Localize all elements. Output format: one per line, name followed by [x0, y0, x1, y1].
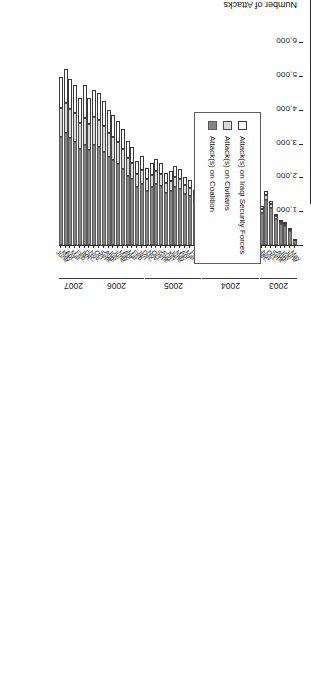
- bar-apr-47: [68, 42, 72, 245]
- bar-dec-43: [87, 42, 91, 245]
- bar-may-48: [64, 42, 68, 245]
- bar-sept-40: [102, 42, 106, 245]
- bar-segment: [140, 156, 144, 170]
- bar-segment: [78, 149, 82, 245]
- legend-label: Attack(s) on Coalition: [208, 136, 217, 212]
- bar-segment: [59, 108, 63, 136]
- bar-segment: [59, 137, 63, 245]
- bar-oct-29: [154, 42, 158, 245]
- bar-mar-46: [73, 42, 77, 245]
- bar-aug-39: [107, 42, 111, 245]
- plot-area: [57, 42, 297, 245]
- bar-segment: [135, 161, 139, 174]
- bar-segment: [140, 170, 144, 184]
- bar-segment: [87, 98, 91, 124]
- bar-segment: [145, 191, 149, 245]
- category-tick: [160, 245, 161, 248]
- category-tick: [74, 245, 75, 248]
- bar-segment: [83, 85, 87, 118]
- bar-july-2: [283, 42, 287, 245]
- year-label: 2004: [222, 281, 241, 291]
- bar-jan-32: [140, 42, 144, 245]
- value-tick: [299, 76, 303, 77]
- bar-segment: [121, 169, 125, 245]
- chart-figure: Number of Attacks 01,0002,0003,0004,0005…: [0, 0, 311, 687]
- bar-segment: [174, 187, 178, 245]
- bar-segment: [73, 113, 77, 141]
- bar-segment: [102, 101, 106, 126]
- bar-segment: [111, 137, 115, 160]
- bar-segment: [83, 118, 87, 145]
- category-tick: [165, 245, 166, 248]
- bar-segment: [97, 120, 101, 147]
- bar-feb-45: [78, 42, 82, 245]
- bar-may-36: [121, 42, 125, 245]
- bar-segment: [68, 79, 72, 108]
- category-tick: [294, 245, 295, 248]
- bar-segment: [92, 145, 96, 245]
- bar-segment: [121, 149, 125, 169]
- bar-segment: [140, 184, 144, 245]
- bar-segment: [126, 176, 130, 245]
- bar-sept-28: [159, 42, 163, 245]
- bar-aug-27: [164, 42, 168, 245]
- bar-segment: [92, 117, 96, 145]
- bar-segment: [150, 175, 154, 187]
- bar-segment: [145, 179, 149, 191]
- bar-segment: [283, 222, 287, 224]
- bar-segment: [188, 188, 192, 196]
- bar-segment: [183, 185, 187, 194]
- bar-segment: [279, 224, 283, 245]
- bar-segment: [102, 152, 106, 245]
- bar-segment: [164, 193, 168, 245]
- category-tick: [122, 245, 123, 248]
- bar-segment: [130, 147, 134, 163]
- category-tick: [265, 245, 266, 248]
- category-tick: [117, 245, 118, 248]
- bar-segment: [64, 133, 68, 245]
- bar-segment: [64, 103, 68, 133]
- legend-label: Attack(s) on Iraqi Security Forces: [238, 136, 247, 254]
- bar-june-25: [174, 42, 178, 245]
- bar-segment: [188, 180, 192, 188]
- category-tick: [270, 245, 271, 248]
- bar-segment: [178, 169, 182, 179]
- category-tick: [179, 245, 180, 248]
- bar-segment: [87, 124, 91, 150]
- bar-may-0: [293, 42, 297, 245]
- legend-label: Attack(s) on Civilians: [223, 136, 232, 211]
- bar-segment: [269, 201, 273, 205]
- bar-segment: [264, 195, 268, 200]
- bar-segment: [87, 150, 91, 245]
- category-tick: [175, 245, 176, 248]
- value-axis-title: Number of Attacks: [223, 0, 297, 10]
- category-tick: [155, 245, 156, 248]
- bar-segment: [169, 171, 173, 181]
- bar-dec-31: [145, 42, 149, 245]
- bar-jan-44: [83, 42, 87, 245]
- bar-segment: [279, 222, 283, 224]
- bar-segment: [116, 164, 120, 245]
- bar-june-1: [288, 42, 292, 245]
- bar-nov-30: [150, 42, 154, 245]
- bar-segment: [111, 115, 115, 138]
- legend-swatch-icon: [238, 121, 247, 130]
- bar-segment: [107, 157, 111, 245]
- category-tick: [284, 245, 285, 248]
- category-tick: [112, 245, 113, 248]
- bar-may-24: [178, 42, 182, 245]
- bar-segment: [78, 123, 82, 149]
- year-label: 2006: [107, 281, 126, 291]
- bar-segment: [269, 204, 273, 208]
- bar-segment: [107, 133, 111, 157]
- bar-segment: [159, 174, 163, 186]
- bar-segment: [178, 179, 182, 189]
- bar-segment: [264, 200, 268, 245]
- value-tick: [299, 144, 303, 145]
- value-axis-line: [310, 0, 311, 204]
- category-tick: [275, 245, 276, 248]
- bar-feb-33: [135, 42, 139, 245]
- value-tick: [299, 42, 303, 43]
- bar-segment: [154, 159, 158, 172]
- category-tick: [141, 245, 142, 248]
